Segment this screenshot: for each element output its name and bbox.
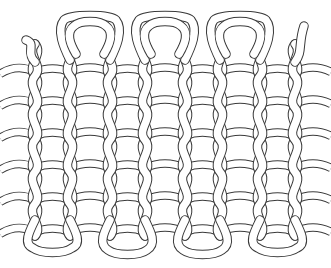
wale-strand-b <box>32 44 37 236</box>
top-loop-inner <box>70 22 111 55</box>
top-loop-inner <box>220 22 261 55</box>
course-yarn <box>0 164 331 171</box>
wale-strand-b <box>217 44 222 236</box>
knit-fabric-diagram <box>0 0 331 268</box>
course-yarn <box>0 228 331 235</box>
course-yarns <box>0 68 331 235</box>
wale-strand-b <box>292 44 297 236</box>
wale-strand-b <box>67 44 72 236</box>
top-loop-inner <box>145 22 186 55</box>
course-yarn <box>0 100 331 107</box>
course-yarn <box>0 196 331 203</box>
course-yarn <box>0 68 331 75</box>
wale-strand-b <box>257 44 262 236</box>
wale-strand-b <box>182 44 187 236</box>
wale-strand-b <box>142 44 147 236</box>
knit-loop-illustration <box>0 0 331 268</box>
course-yarn <box>0 132 331 139</box>
wale-chains <box>32 44 297 236</box>
wale-strand-b <box>107 44 112 236</box>
